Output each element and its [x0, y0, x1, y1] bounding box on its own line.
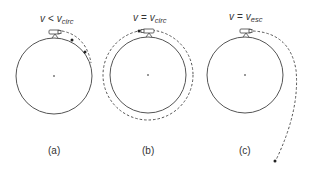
planet-a-center — [53, 75, 55, 77]
projectile-a-2 — [84, 51, 87, 54]
caption-a: (a) — [48, 145, 60, 156]
panel-c: v=vesc (c) — [207, 11, 297, 163]
caption-c: (c) — [239, 145, 251, 156]
panel-c-label: v=vesc — [229, 11, 263, 24]
trajectory-a — [62, 31, 91, 63]
planet-b-center — [147, 74, 149, 76]
planet-c-center — [244, 74, 246, 76]
projectile-b — [138, 30, 141, 33]
panel-a-label: v<vcirc — [40, 13, 74, 26]
cannon-icon — [49, 30, 61, 38]
orbit-diagram: v<vcirc (a) v=vcirc (b) v=vesc — [0, 0, 309, 171]
cannon-icon — [141, 29, 154, 37]
cannon-icon — [240, 29, 252, 37]
caption-b: (b) — [142, 145, 154, 156]
projectile-a-1 — [71, 39, 74, 42]
panel-b-label: v=vcirc — [133, 12, 167, 25]
panel-a: v<vcirc (a) — [16, 13, 92, 156]
trajectory-c — [253, 31, 297, 160]
projectile-c — [274, 160, 277, 163]
panel-b: v=vcirc (b) — [103, 12, 193, 156]
